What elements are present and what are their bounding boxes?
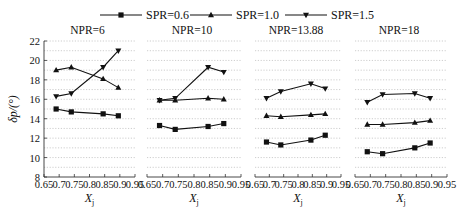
x-axis-label: Xj <box>188 191 199 207</box>
x-tick-label: 0.75 <box>274 179 292 190</box>
y-tick-label: 22 <box>30 36 41 47</box>
data-point-triangle-up-icon <box>115 84 121 89</box>
x-tick-label: 0.7 <box>364 179 377 190</box>
data-point-triangle-down-icon <box>263 96 269 101</box>
panel-npr-13-88: 0.650.70.750.80.850.90.95XjNPR=13.88 <box>246 24 350 207</box>
series-spr-0-6 <box>264 133 328 148</box>
chart-legend: SPR=0.6SPR=1.0SPR=1.5 <box>100 8 374 22</box>
y-tick-label: 20 <box>30 55 41 66</box>
series-line <box>367 143 430 154</box>
legend-item: SPR=1.0 <box>190 8 279 22</box>
series-spr-0-6 <box>365 140 433 156</box>
series-spr-1-0 <box>263 111 328 119</box>
panel-title: NPR=18 <box>379 24 420 36</box>
data-point-triangle-up-icon <box>427 117 433 122</box>
data-point-triangle-down-icon <box>427 96 433 101</box>
data-point-square-icon <box>173 127 178 132</box>
x-tick-label: 0.9 <box>425 179 438 190</box>
legend-label: SPR=1.0 <box>236 8 279 22</box>
data-point-square-icon <box>116 113 121 118</box>
panel-npr-18: 0.650.70.750.80.850.90.95XjNPR=18 <box>346 24 456 207</box>
legend-marker-square-icon <box>118 12 123 17</box>
data-point-square-icon <box>206 124 211 129</box>
data-point-triangle-down-icon <box>322 86 328 91</box>
data-point-square-icon <box>101 111 106 116</box>
x-tick-label: 0.85 <box>303 179 321 190</box>
chart-panels: 0.650.70.750.80.850.90.95XjNPR=60.650.70… <box>35 24 456 207</box>
x-tick-label: 0.7 <box>53 179 66 190</box>
series-spr-1-5 <box>157 65 227 103</box>
panel-title: NPR=6 <box>70 24 105 36</box>
y-tick-label: 16 <box>30 94 41 105</box>
x-tick-label: 0.85 <box>200 179 218 190</box>
legend-item: SPR=0.6 <box>100 8 189 22</box>
panel-title: NPR=13.88 <box>269 24 324 36</box>
data-point-triangle-down-icon <box>53 94 59 99</box>
series-line <box>266 114 325 117</box>
x-tick-label: 0.65 <box>35 179 53 190</box>
panel-npr-6: 0.650.70.750.80.850.90.95XjNPR=6 <box>35 24 144 207</box>
x-tick-label: 0.85 <box>95 179 113 190</box>
data-point-square-icon <box>69 109 74 114</box>
series-spr-1-0 <box>53 64 121 90</box>
x-tick-label: 0.75 <box>169 179 187 190</box>
legend-label: SPR=1.5 <box>331 8 374 22</box>
legend-item: SPR=1.5 <box>285 8 374 22</box>
series-spr-1-5 <box>364 91 433 105</box>
series-line <box>266 135 325 145</box>
panel-title: NPR=10 <box>172 24 213 36</box>
y-axis-ticks: 810121416182022 <box>30 36 41 183</box>
x-tick-label: 0.7 <box>156 179 169 190</box>
data-point-square-icon <box>428 140 433 145</box>
x-tick-label: 0.65 <box>138 179 156 190</box>
x-axis-label: Xj <box>84 191 95 207</box>
series-spr-0-6 <box>157 121 226 132</box>
data-point-square-icon <box>323 133 328 138</box>
data-point-square-icon <box>221 121 226 126</box>
data-point-square-icon <box>412 145 417 150</box>
x-axis-label: Xj <box>395 191 406 207</box>
line-chart: SPR=0.6SPR=1.0SPR=1.5 δp/(°) 81012141618… <box>0 0 473 216</box>
x-tick-label: 0.8 <box>394 179 407 190</box>
y-tick-label: 18 <box>30 75 41 86</box>
x-tick-label: 0.95 <box>438 179 456 190</box>
y-axis-label: δp/(°) <box>6 95 20 123</box>
data-point-triangle-up-icon <box>68 64 74 69</box>
x-tick-label: 0.75 <box>65 179 83 190</box>
y-tick-label: 10 <box>30 153 41 164</box>
x-axis-label: Xj <box>292 191 303 207</box>
data-point-square-icon <box>157 123 162 128</box>
data-point-triangle-up-icon <box>205 95 211 100</box>
data-point-triangle-up-icon <box>263 113 269 118</box>
series-spr-1-5 <box>53 49 121 100</box>
series-line <box>56 109 118 116</box>
series-line <box>160 124 224 130</box>
x-tick-label: 0.85 <box>407 179 425 190</box>
data-point-triangle-down-icon <box>221 70 227 75</box>
data-point-triangle-up-icon <box>322 111 328 116</box>
x-tick-label: 0.65 <box>346 179 364 190</box>
y-axis-title: δp/(°) <box>6 95 20 123</box>
x-tick-label: 0.65 <box>246 179 264 190</box>
data-point-square-icon <box>365 149 370 154</box>
data-point-square-icon <box>380 151 385 156</box>
series-spr-1-5 <box>263 82 328 102</box>
data-point-square-icon <box>264 139 269 144</box>
series-line <box>160 67 224 100</box>
legend-label: SPR=0.6 <box>146 8 189 22</box>
data-point-triangle-down-icon <box>364 100 370 105</box>
x-tick-label: 0.8 <box>83 179 96 190</box>
data-point-square-icon <box>278 142 283 147</box>
series-line <box>367 93 430 102</box>
x-tick-label: 0.75 <box>376 179 394 190</box>
x-tick-label: 0.9 <box>219 179 232 190</box>
x-tick-label: 0.9 <box>113 179 126 190</box>
data-point-square-icon <box>308 137 313 142</box>
series-spr-0-6 <box>54 106 121 118</box>
x-tick-label: 0.8 <box>187 179 200 190</box>
series-line <box>266 84 325 99</box>
y-tick-label: 12 <box>30 133 41 144</box>
panel-npr-10: 0.650.70.750.80.850.90.95XjNPR=10 <box>138 24 250 207</box>
data-point-square-icon <box>54 106 59 111</box>
series-line <box>367 121 430 125</box>
